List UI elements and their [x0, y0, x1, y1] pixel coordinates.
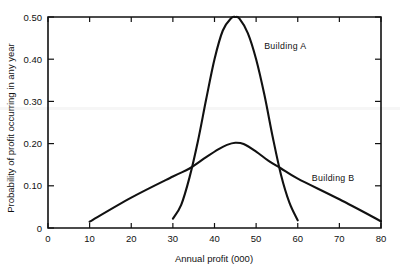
y-axis-title: Probability of profit occurring in any y… — [5, 43, 16, 213]
x-tick-label: 30 — [168, 233, 179, 244]
probability-of-profit-chart: 01020304050607080 00.100.200.300.400.50 … — [0, 0, 400, 273]
x-tick-label: 80 — [376, 233, 387, 244]
x-tick-label: 0 — [45, 233, 50, 244]
x-axis-title: Annual profit (000) — [175, 253, 253, 264]
x-tick-label: 70 — [334, 233, 345, 244]
y-tick-label: 0.20 — [24, 138, 43, 149]
x-tick-label: 20 — [126, 233, 137, 244]
y-tick-label: 0.10 — [24, 180, 43, 191]
series-label-building-a: Building A — [264, 41, 306, 51]
series-label-building-b: Building B — [312, 173, 355, 183]
x-tick-label: 40 — [209, 233, 220, 244]
x-tick-label: 10 — [84, 233, 95, 244]
y-tick-label: 0 — [37, 223, 42, 234]
x-tick-label: 50 — [251, 233, 262, 244]
y-tick-label: 0.40 — [24, 54, 43, 65]
x-tick-label: 60 — [292, 233, 303, 244]
y-tick-label: 0.30 — [24, 96, 43, 107]
y-tick-label: 0.50 — [24, 12, 43, 23]
chart-figure: 01020304050607080 00.100.200.300.400.50 … — [0, 0, 400, 273]
